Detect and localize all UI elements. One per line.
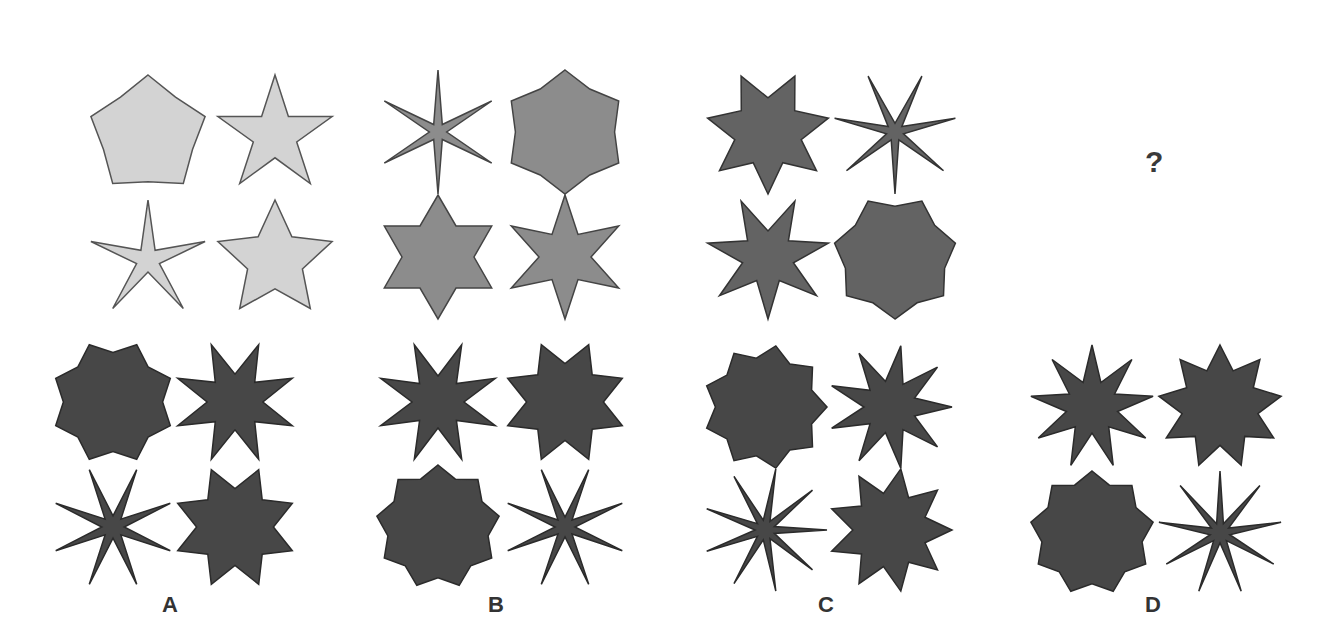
star-5-point-icon — [218, 200, 332, 309]
star-group — [45, 335, 305, 595]
star-9-point-icon — [377, 465, 499, 585]
star-8-point-icon — [178, 470, 293, 585]
star-5-point-icon — [91, 75, 205, 184]
star-9-point-icon — [1031, 471, 1153, 591]
star-8-point-icon — [381, 345, 496, 460]
question-panel-3 — [700, 35, 950, 285]
option-a[interactable] — [45, 335, 295, 585]
option-label-d: D — [1133, 592, 1173, 618]
star-6-point-icon — [511, 195, 618, 319]
star-group — [370, 335, 630, 595]
star-group — [1030, 335, 1290, 595]
star-6-point-icon — [384, 70, 491, 194]
star-6-point-icon — [511, 70, 618, 194]
option-label-b: B — [476, 592, 516, 618]
star-8-point-icon — [508, 345, 623, 460]
star-5-point-icon — [218, 75, 332, 184]
star-group — [700, 35, 960, 295]
star-9-point-icon — [832, 346, 952, 468]
star-9-point-icon — [1159, 345, 1281, 465]
option-c[interactable] — [700, 335, 950, 585]
star-9-point-icon — [1031, 345, 1153, 465]
option-label-a: A — [150, 592, 190, 618]
star-7-point-icon — [835, 201, 956, 319]
star-9-point-icon — [1159, 471, 1281, 591]
star-9-point-icon — [707, 346, 827, 468]
star-8-point-icon — [56, 345, 171, 460]
star-group — [370, 35, 630, 295]
star-7-point-icon — [835, 76, 956, 194]
star-8-point-icon — [508, 470, 623, 585]
question-mark: ? — [1145, 145, 1163, 179]
option-b[interactable] — [370, 335, 620, 585]
star-group — [700, 335, 960, 595]
question-panel-1 — [45, 35, 295, 285]
star-group — [45, 35, 305, 295]
question-panel-2 — [370, 35, 620, 285]
star-5-point-icon — [91, 200, 205, 309]
star-9-point-icon — [707, 469, 827, 591]
star-7-point-icon — [708, 76, 829, 194]
option-label-c: C — [806, 592, 846, 618]
option-d[interactable] — [1030, 335, 1280, 585]
star-9-point-icon — [832, 469, 952, 591]
star-8-point-icon — [56, 470, 171, 585]
star-7-point-icon — [708, 201, 829, 319]
star-8-point-icon — [178, 345, 293, 460]
star-6-point-icon — [384, 195, 491, 319]
